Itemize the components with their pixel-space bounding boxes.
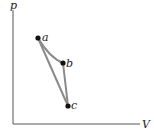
point-b [60,60,65,65]
pv-diagram: p V a b c [0,0,154,133]
x-axis-label: V [142,118,151,131]
point-c [65,103,70,108]
point-c-label: c [71,99,77,112]
point-a [35,35,40,40]
point-a-label: a [42,31,49,44]
point-b-label: b [66,57,73,70]
y-axis-label: p [10,0,17,12]
